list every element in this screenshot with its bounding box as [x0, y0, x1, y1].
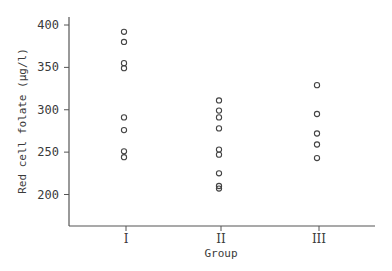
data-point-circle: [121, 127, 126, 132]
x-tick-label: II: [216, 232, 226, 246]
data-point-circle: [121, 29, 126, 34]
data-point-circle: [314, 83, 319, 88]
data-point-circle: [121, 115, 126, 120]
axes: [69, 17, 375, 226]
x-axis-title: Group: [204, 247, 237, 260]
data-point-circle: [314, 155, 319, 160]
y-ticks: 200250300350400: [37, 18, 69, 202]
data-point-circle: [216, 147, 221, 152]
data-points: [121, 29, 319, 191]
data-point-circle: [314, 131, 319, 136]
x-tick-label: III: [312, 232, 326, 246]
y-tick-label: 250: [37, 145, 59, 159]
x-tick-label: I: [124, 232, 129, 246]
data-point-circle: [121, 39, 126, 44]
data-point-circle: [216, 126, 221, 131]
scatter-chart: 200250300350400 IIIIII Group Red cell fo…: [0, 0, 392, 271]
y-tick-label: 200: [37, 188, 59, 202]
data-point-circle: [216, 98, 221, 103]
data-point-circle: [216, 152, 221, 157]
y-axis-title: Red cell folate (µg/l): [16, 48, 29, 194]
data-point-circle: [121, 155, 126, 160]
y-tick-label: 400: [37, 18, 59, 32]
data-point-circle: [314, 111, 319, 116]
y-tick-label: 300: [37, 103, 59, 117]
data-point-circle: [216, 115, 221, 120]
x-ticks: IIIIII: [124, 226, 327, 246]
data-point-circle: [121, 66, 126, 71]
data-point-circle: [216, 108, 221, 113]
data-point-circle: [121, 149, 126, 154]
data-point-circle: [314, 142, 319, 147]
data-point-circle: [216, 171, 221, 176]
data-point-circle: [121, 61, 126, 66]
y-tick-label: 350: [37, 60, 59, 74]
